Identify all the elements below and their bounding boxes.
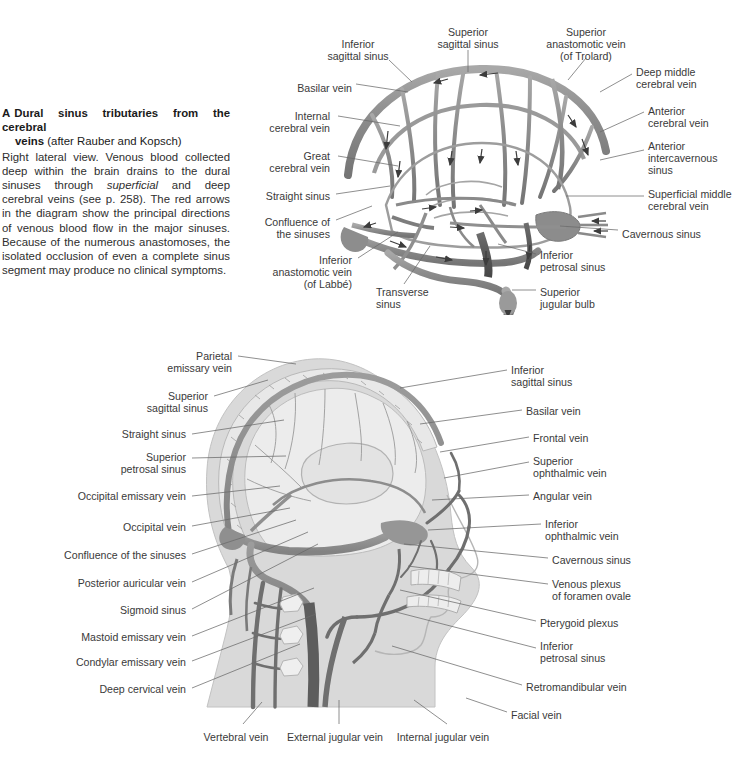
label-confluence-of-the-sinuses: Confluence of the sinuses [0, 216, 330, 240]
cervical-vertebrae [280, 594, 303, 676]
label-confluence-of-the-sinuses-b: Confluence of the sinuses [0, 549, 186, 561]
label-great-cerebral-vein: Great cerebral vein [0, 150, 330, 174]
label-retromandibular-vein: Retromandibular vein [526, 681, 627, 693]
label-mastoid-emissary-vein: Mastoid emissary vein [0, 631, 186, 643]
figure-b-sagittal-head-diagram [185, 345, 530, 720]
label-deep-cervical-vein: Deep cervical vein [0, 683, 186, 695]
figure-a-svg [330, 55, 630, 315]
label-cavernous-sinus-b: Cavernous sinus [552, 554, 631, 566]
inferior-petrosal-sinus-vessel [480, 223, 530, 277]
label-anterior-intercavernous-sinus: Anterior intercavernous sinus [648, 140, 718, 177]
superior-sagittal-sinus-vessel [348, 69, 606, 175]
label-deep-middle-cerebral-vein: Deep middle cerebral vein [636, 66, 697, 90]
label-basilar-vein-b: Basilar vein [526, 405, 581, 417]
label-occipital-emissary-vein: Occipital emissary vein [0, 490, 186, 502]
caption-attribution: (after Rauber and Kopsch) [47, 135, 181, 147]
label-superior-petrosal-sinus: Superior petrosal sinus [0, 451, 186, 475]
figure-a-dural-sinus-diagram [330, 55, 630, 315]
label-pterygoid-plexus: Pterygoid plexus [540, 617, 618, 629]
flow-direction-arrows [364, 73, 608, 315]
label-superior-ophthalmic-vein: Superior ophthalmic vein [533, 455, 607, 479]
label-parietal-emissary-vein: Parietal emissary vein [0, 350, 232, 374]
great-cerebral-vein-vessel [392, 217, 434, 228]
label-condylar-emissary-vein: Condylar emissary vein [0, 656, 186, 668]
label-posterior-auricular-vein: Posterior auricular vein [0, 577, 186, 589]
label-straight-sinus-b: Straight sinus [0, 428, 186, 440]
label-cavernous-sinus: Cavernous sinus [622, 228, 701, 240]
label-transverse-sinus: Transverse sinus [376, 286, 429, 310]
label-superior-anastomotic-vein: Superior anastomotic vein (of Trolard) [496, 26, 676, 63]
label-occipital-vein: Occipital vein [0, 521, 186, 533]
figure-b-svg [185, 345, 530, 720]
label-inferior-anastomotic-vein: Inferior anastomotic vein (of Labbé) [0, 254, 352, 291]
label-anterior-cerebral-vein: Anterior cerebral vein [648, 105, 709, 129]
label-inferior-petrosal-sinus: Inferior petrosal sinus [540, 249, 605, 273]
label-superior-jugular-bulb: Superior jugular bulb [540, 286, 595, 310]
label-venous-plexus-foramen-ovale: Venous plexus of foramen ovale [552, 578, 631, 602]
label-sigmoid-sinus: Sigmoid sinus [0, 604, 186, 616]
label-straight-sinus: Straight sinus [0, 190, 330, 202]
label-internal-jugular-vein: Internal jugular vein [353, 731, 533, 743]
caption-title-line2: veins [15, 135, 44, 147]
label-frontal-vein: Frontal vein [533, 432, 588, 444]
label-facial-vein: Facial vein [511, 709, 562, 721]
label-angular-vein: Angular vein [533, 490, 592, 502]
label-inferior-ophthalmic-vein: Inferior ophthalmic vein [545, 518, 619, 542]
label-inferior-petrosal-sinus-b: Inferior petrosal sinus [540, 640, 605, 664]
anatomy-plate-page: ADural sinus tributaries from the cerebr… [0, 0, 754, 761]
label-basilar-vein: Basilar vein [0, 82, 352, 94]
transverse-sinus-vessel [346, 233, 538, 264]
label-inferior-sagittal-sinus-b: Inferior sagittal sinus [511, 364, 572, 388]
label-superficial-middle-cerebral-vein: Superficial middle cerebral vein [648, 188, 732, 212]
label-superior-sagittal-sinus-b: Superior sagittal sinus [0, 390, 208, 414]
label-internal-cerebral-vein: Internal cerebral vein [0, 110, 330, 134]
internal-jugular-vein-vessel [309, 603, 314, 707]
